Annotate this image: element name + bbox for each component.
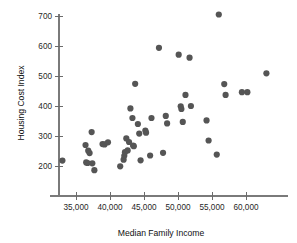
data-point	[136, 131, 142, 137]
data-point	[143, 130, 149, 136]
data-point	[223, 92, 229, 98]
data-point	[239, 89, 245, 95]
data-point	[156, 45, 162, 51]
data-point	[176, 52, 182, 58]
data-point	[135, 121, 141, 127]
data-point	[163, 113, 169, 119]
y-tick-label: 500	[38, 72, 52, 81]
data-point	[216, 11, 222, 17]
data-point	[117, 163, 123, 169]
x-tick-label: 60,000	[233, 203, 258, 212]
data-point	[89, 160, 95, 166]
data-point	[125, 147, 131, 153]
x-tick-label: 55,000	[199, 203, 224, 212]
data-point	[164, 120, 170, 126]
y-axis-tick-labels: 200300400500600700	[38, 12, 52, 171]
scatter-plot-figure: 200300400500600700 35,00040,00045,00050,…	[0, 0, 297, 243]
x-tick-label: 35,000	[63, 203, 88, 212]
data-point	[59, 158, 65, 164]
x-tick-label: 45,000	[131, 203, 156, 212]
x-tick-label: 40,000	[97, 203, 122, 212]
data-point	[186, 55, 192, 61]
data-point	[147, 152, 153, 158]
data-point	[203, 117, 209, 123]
y-tick-label: 300	[38, 132, 52, 141]
data-point	[132, 81, 138, 87]
y-tick-label: 700	[38, 12, 52, 21]
data-point	[127, 105, 133, 111]
data-point	[188, 103, 194, 109]
data-point	[182, 92, 188, 98]
data-point	[129, 115, 135, 121]
data-point	[105, 139, 111, 145]
y-tick-label: 200	[38, 162, 52, 171]
y-tick-label: 600	[38, 42, 52, 51]
x-axis: 35,00040,00045,00050,00055,00060,000	[50, 192, 288, 212]
y-tick-label: 400	[38, 102, 52, 111]
data-point	[138, 157, 144, 163]
y-axis-title: Housing Cost Index	[16, 65, 26, 141]
data-point	[180, 119, 186, 125]
data-point	[82, 142, 88, 148]
x-axis-tick-labels: 35,00040,00045,00050,00055,00060,000	[63, 203, 258, 212]
data-point	[206, 137, 212, 143]
x-axis-title: Median Family Income	[118, 228, 205, 238]
data-point	[160, 150, 166, 156]
data-point	[91, 167, 97, 173]
data-point	[221, 81, 227, 87]
plot-canvas: 200300400500600700 35,00040,00045,00050,…	[0, 0, 297, 243]
x-tick-label: 50,000	[165, 203, 190, 212]
data-point	[87, 150, 93, 156]
data-point	[89, 129, 95, 135]
y-axis: 200300400500600700	[38, 12, 63, 196]
data-points-layer	[59, 11, 269, 173]
data-point	[244, 89, 250, 95]
data-point	[214, 152, 220, 158]
data-point	[263, 70, 269, 76]
data-point	[131, 143, 137, 149]
data-point	[178, 106, 184, 112]
data-point	[148, 115, 154, 121]
